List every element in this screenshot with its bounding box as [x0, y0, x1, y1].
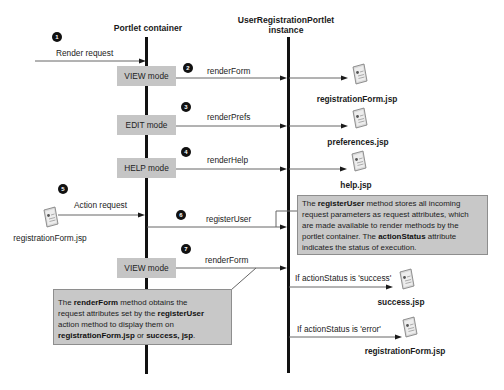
step-marker-7: 7: [181, 244, 191, 254]
step-marker-2: 2: [183, 63, 193, 73]
callout-render-form: [231, 268, 256, 290]
render-help-label: renderHelp: [207, 155, 248, 165]
jsp-file-icon: [399, 268, 415, 290]
step-marker-3: 3: [181, 102, 191, 112]
if-success-label: If actionStatus is 'success': [295, 273, 391, 283]
render-request-label: Render request: [56, 48, 113, 58]
if-error-label: If actionStatus is 'error': [297, 324, 381, 334]
step-marker-5: 5: [58, 184, 68, 194]
note-line: request parameters as request attributes…: [302, 209, 483, 220]
note-line: registrationForm.jsp or success, jsp.: [58, 330, 227, 341]
render-form-label-2: renderForm: [205, 255, 248, 265]
jsp-file-icon: [402, 316, 418, 338]
render-prefs-label: renderPrefs: [207, 112, 250, 122]
jsp-file-icon: [352, 63, 368, 85]
registration-form-jsp-label: registrationForm.jsp: [307, 94, 407, 104]
step-marker-6: 6: [176, 210, 186, 220]
note-line: are made available to render methods by …: [302, 220, 483, 231]
success-jsp-label: success.jsp: [351, 297, 451, 307]
render-form-label: renderForm: [207, 66, 250, 76]
jsp-file-icon: [43, 206, 59, 228]
note-line: action method to display them on: [58, 319, 227, 330]
help-mode-box: HELP mode: [117, 158, 176, 178]
action-request-label: Action request: [74, 200, 127, 210]
callout-register-user: [276, 211, 297, 227]
render-form-note: The renderForm method obtains the reques…: [53, 289, 232, 345]
note-line: The registerUser method stores all incom…: [302, 198, 483, 209]
jsp-file-icon: [352, 107, 368, 129]
view-mode-box-2: VIEW mode: [117, 258, 176, 278]
note-line: request attributes set by the registerUs…: [58, 308, 227, 319]
registration-form-jsp-source-label: registrationForm.jsp: [0, 233, 100, 243]
note-line: portlet container. The actionStatus attr…: [302, 231, 483, 242]
note-line: indicates the status of execution.: [302, 242, 483, 253]
help-jsp-label: help.jsp: [306, 180, 406, 190]
view-mode-box: VIEW mode: [117, 66, 176, 86]
edit-mode-box: EDIT mode: [117, 115, 176, 135]
register-user-note: The registerUser method stores all incom…: [297, 195, 488, 255]
preferences-jsp-label: preferences.jsp: [308, 137, 408, 147]
jsp-file-icon: [351, 150, 367, 172]
register-user-label: registerUser: [206, 214, 251, 224]
note-line: The renderForm method obtains the: [58, 297, 227, 308]
registration-form-jsp-error-label: registrationForm.jsp: [355, 346, 455, 356]
step-marker-1: 1: [52, 32, 62, 42]
step-marker-4: 4: [181, 147, 191, 157]
